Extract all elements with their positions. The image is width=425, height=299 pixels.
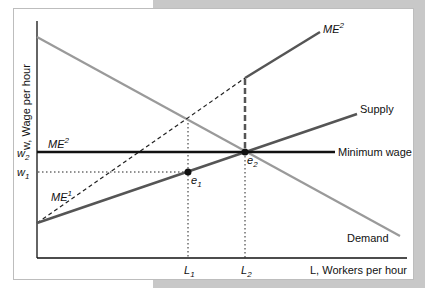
- supply-curve: [37, 114, 357, 223]
- label-supply: Supply: [360, 103, 394, 115]
- tick-w1: w1: [17, 166, 29, 181]
- label-me2-top: ME2: [323, 21, 345, 35]
- me2-upper-segment: [245, 32, 320, 78]
- tick-l2: L2: [241, 264, 252, 279]
- chart: w, Wage per hour w2 w1 L1 L2 L, Workers …: [0, 0, 425, 299]
- label-e1: e1: [191, 174, 202, 189]
- demand-curve: [37, 37, 400, 236]
- tick-l1: L1: [184, 264, 195, 279]
- label-demand: Demand: [347, 232, 389, 244]
- y-axis-label: w, Wage per hour: [20, 64, 32, 151]
- me1-curve: [37, 78, 245, 223]
- label-minimum-wage: Minimum wage: [338, 146, 412, 158]
- label-me2-left: ME2: [48, 136, 70, 150]
- x-axis-label: L, Workers per hour: [310, 264, 407, 276]
